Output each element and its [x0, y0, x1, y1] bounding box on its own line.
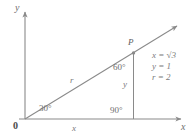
equation-y: y = 1	[152, 61, 176, 72]
equation-r: r = 2	[152, 72, 176, 83]
y-axis-label: y	[15, 3, 19, 13]
origin-label: 0	[13, 121, 18, 131]
ray-length-label-r: r	[70, 76, 74, 85]
leg-y-label: y	[123, 80, 127, 89]
equation-x: x = √3	[152, 50, 176, 61]
equation-list: x = √3 y = 1 r = 2	[152, 50, 176, 83]
leg-x-label: x	[72, 124, 76, 133]
math-figure-30-60-90-triangle: y x 0 P r x y 30° 60° 90° x = √3 y = 1 r…	[0, 0, 191, 140]
x-axis-label: x	[181, 122, 185, 132]
point-p-marker	[132, 51, 135, 54]
point-p-label: P	[128, 38, 134, 47]
angle-label-30: 30°	[39, 104, 52, 113]
angle-label-90: 90°	[110, 106, 123, 115]
angle-label-60: 60°	[113, 63, 126, 72]
